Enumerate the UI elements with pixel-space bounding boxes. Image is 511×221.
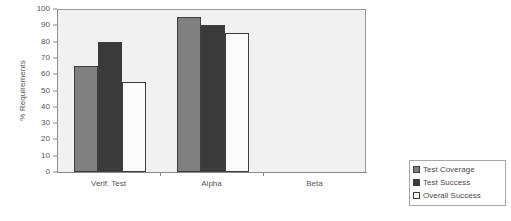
- y-axis-tick-label: 30: [26, 119, 50, 127]
- legend-swatch-icon: [413, 166, 420, 173]
- y-axis-tick-mark: [53, 172, 57, 173]
- legend-item-label: Test Success: [423, 179, 470, 187]
- legend-item[interactable]: Test Coverage: [413, 163, 502, 176]
- y-axis-tick-label: 10: [26, 152, 50, 160]
- y-axis-tick-mark: [53, 139, 57, 140]
- bar-verif-test-test-coverage: [74, 66, 98, 172]
- x-axis-category-label: Verif. Test: [91, 179, 126, 188]
- y-axis-tick-mark: [53, 41, 57, 42]
- y-axis-tick-mark: [53, 25, 57, 26]
- y-axis-tick-label: 50: [26, 87, 50, 95]
- plot-area: [57, 9, 366, 172]
- y-axis-tick-mark: [53, 123, 57, 124]
- x-axis-category-label: Beta: [306, 179, 322, 188]
- y-axis-tick-mark: [53, 74, 57, 75]
- y-axis-tick-mark: [53, 106, 57, 107]
- legend-item-label: Overall Success: [423, 192, 481, 200]
- y-axis-tick-label: 80: [26, 38, 50, 46]
- y-axis-tick-label: 20: [26, 135, 50, 143]
- bar-chart: % Requirements 1009080706050403020100 Ve…: [0, 0, 511, 221]
- bar-alpha-test-coverage: [177, 17, 201, 172]
- y-axis-tick-mark: [53, 9, 57, 10]
- x-axis-category-label: Alpha: [201, 179, 221, 188]
- x-axis-tick-mark: [263, 172, 264, 176]
- chart-legend: Test CoverageTest SuccessOverall Success: [409, 160, 506, 206]
- y-axis-tick-mark: [53, 57, 57, 58]
- bars-layer: [58, 10, 365, 172]
- y-axis-tick-label: 0: [26, 168, 50, 176]
- x-axis-tick-mark: [160, 172, 161, 176]
- bar-alpha-overall-success: [225, 33, 249, 172]
- bar-alpha-test-success: [201, 25, 225, 172]
- y-axis-tick-labels: 1009080706050403020100: [26, 9, 50, 172]
- x-axis-line: [57, 172, 367, 173]
- y-axis-tick-mark: [53, 90, 57, 91]
- bar-verif-test-test-success: [98, 42, 122, 172]
- legend-item[interactable]: Overall Success: [413, 189, 502, 202]
- legend-item[interactable]: Test Success: [413, 176, 502, 189]
- y-axis-tick-label: 100: [26, 5, 50, 13]
- y-axis-tick-label: 40: [26, 103, 50, 111]
- legend-swatch-icon: [413, 179, 420, 186]
- y-axis-tick-mark: [53, 155, 57, 156]
- y-axis-tick-label: 90: [26, 21, 50, 29]
- y-axis-line: [57, 9, 58, 173]
- legend-swatch-icon: [413, 192, 420, 199]
- legend-item-label: Test Coverage: [423, 166, 475, 174]
- y-axis-tick-label: 70: [26, 54, 50, 62]
- bar-verif-test-overall-success: [122, 82, 146, 172]
- y-axis-tick-label: 60: [26, 70, 50, 78]
